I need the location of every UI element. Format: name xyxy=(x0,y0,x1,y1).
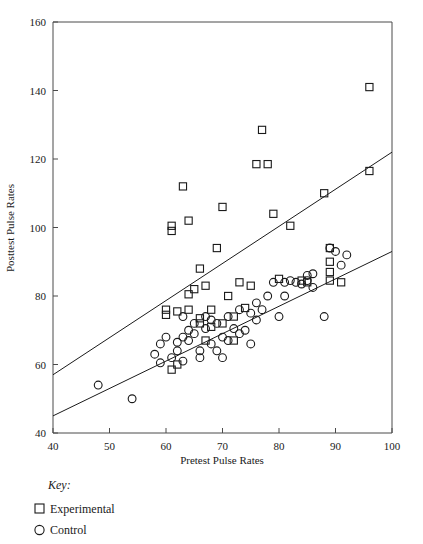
data-point-experimental xyxy=(326,258,333,265)
x-tick-label: 50 xyxy=(104,440,116,452)
data-point-experimental xyxy=(219,203,226,210)
x-tick-label: 60 xyxy=(161,440,173,452)
data-point-control xyxy=(128,395,136,403)
x-axis-title: Pretest Pulse Rates xyxy=(180,454,264,466)
data-point-experimental xyxy=(236,279,243,286)
data-point-experimental xyxy=(196,265,203,272)
data-point-control xyxy=(224,313,232,321)
data-point-experimental xyxy=(270,210,277,217)
legend-title: Key: xyxy=(47,478,71,492)
y-tick-label: 140 xyxy=(30,85,47,97)
data-point-experimental xyxy=(338,279,345,286)
y-axis-title: Posttest Pulse Rates xyxy=(4,184,16,272)
data-point-control xyxy=(168,354,176,362)
data-point-control xyxy=(156,340,164,348)
data-point-experimental xyxy=(366,83,373,90)
data-point-control xyxy=(202,313,210,321)
data-point-control xyxy=(219,354,227,362)
data-point-control xyxy=(162,333,170,341)
data-point-control xyxy=(247,309,255,317)
data-point-control xyxy=(213,347,221,355)
y-axis-ticks: 406080100120140160 xyxy=(30,16,59,439)
data-point-control xyxy=(224,337,232,345)
data-point-control xyxy=(151,350,159,358)
legend-key: Key: Experimental Control xyxy=(35,478,115,537)
data-point-control xyxy=(219,333,227,341)
data-point-experimental xyxy=(185,306,192,313)
data-point-control xyxy=(343,251,351,259)
y-tick-label: 80 xyxy=(35,290,47,302)
data-point-control xyxy=(190,330,198,338)
data-point-experimental xyxy=(168,227,175,234)
data-point-experimental xyxy=(213,244,220,251)
y-tick-label: 160 xyxy=(30,16,47,28)
data-point-control xyxy=(202,325,210,333)
series-control-points xyxy=(94,244,350,402)
scatter-plot-figure: 406080100120140160 405060708090100 Prete… xyxy=(0,0,423,544)
x-tick-label: 70 xyxy=(217,440,229,452)
y-tick-label: 120 xyxy=(30,153,47,165)
x-tick-label: 80 xyxy=(274,440,286,452)
data-point-experimental xyxy=(287,222,294,229)
legend-label-experimental: Experimental xyxy=(50,502,115,516)
data-point-experimental xyxy=(162,311,169,318)
data-point-control xyxy=(179,333,187,341)
data-point-experimental xyxy=(168,222,175,229)
data-point-experimental xyxy=(326,268,333,275)
data-point-experimental xyxy=(185,217,192,224)
y-tick-label: 100 xyxy=(30,222,47,234)
data-point-control xyxy=(320,313,328,321)
data-point-control xyxy=(236,306,244,314)
data-point-control xyxy=(264,292,272,300)
data-point-experimental xyxy=(253,161,260,168)
data-point-control xyxy=(337,261,345,269)
data-point-control xyxy=(258,306,266,314)
data-point-experimental xyxy=(264,161,271,168)
x-axis-ticks: 405060708090100 xyxy=(48,428,401,452)
chart-canvas: 406080100120140160 405060708090100 Prete… xyxy=(0,0,423,544)
y-tick-label: 60 xyxy=(35,359,47,371)
data-point-control xyxy=(326,244,334,252)
data-point-experimental xyxy=(202,282,209,289)
data-point-control xyxy=(241,326,249,334)
data-point-experimental xyxy=(247,282,254,289)
x-tick-label: 40 xyxy=(48,440,60,452)
data-point-experimental xyxy=(208,306,215,313)
legend-label-control: Control xyxy=(50,523,87,537)
data-point-experimental xyxy=(225,292,232,299)
data-point-experimental xyxy=(275,275,282,282)
data-point-experimental xyxy=(258,126,265,133)
y-tick-label: 40 xyxy=(35,427,47,439)
data-point-control xyxy=(179,313,187,321)
data-point-control xyxy=(190,320,198,328)
axes xyxy=(53,22,392,433)
data-point-experimental xyxy=(179,183,186,190)
data-point-control xyxy=(275,313,283,321)
data-point-control xyxy=(236,330,244,338)
data-point-control xyxy=(185,326,193,334)
data-point-experimental xyxy=(321,190,328,197)
legend-marker-square xyxy=(35,504,44,513)
data-point-control xyxy=(253,299,261,307)
data-point-control xyxy=(94,381,102,389)
legend-marker-circle xyxy=(35,525,44,534)
data-point-control xyxy=(185,337,193,345)
regression-lines xyxy=(53,152,392,416)
data-point-control xyxy=(247,340,255,348)
data-point-experimental xyxy=(162,306,169,313)
x-tick-label: 100 xyxy=(384,440,401,452)
data-point-control xyxy=(281,292,289,300)
data-point-control xyxy=(173,347,181,355)
x-tick-label: 90 xyxy=(330,440,342,452)
